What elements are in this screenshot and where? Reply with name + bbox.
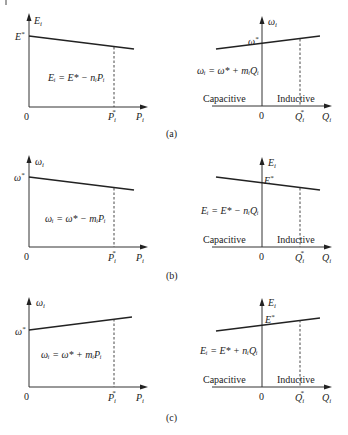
droop-equation: ωᵢ = ω* + mᵢQᵢ bbox=[197, 65, 259, 76]
intercept-label: ω bbox=[15, 326, 22, 337]
svg-text:Pi*: Pi* bbox=[107, 249, 116, 265]
panel-c-right-plot: Ei E* Eᵢ = E* + nᵢQᵢ Capacitive Inductiv… bbox=[199, 297, 332, 405]
svg-text:Ei: Ei bbox=[267, 157, 276, 170]
svg-text:Pi: Pi bbox=[135, 392, 144, 405]
inductive-region-label: Inductive bbox=[277, 374, 315, 385]
droop-line bbox=[29, 177, 134, 190]
droop-line bbox=[29, 317, 132, 330]
svg-text:Qi*: Qi* bbox=[295, 249, 304, 265]
svg-text:Qi: Qi bbox=[322, 111, 331, 124]
svg-text:Pi*: Pi* bbox=[107, 389, 116, 405]
y-axis-arrow-icon bbox=[260, 16, 265, 24]
x-axis-label: P bbox=[135, 111, 142, 122]
x-axis-arrow-icon bbox=[140, 105, 148, 110]
capacitive-region-label: Capacitive bbox=[203, 93, 246, 104]
panel-caption: (b) bbox=[166, 270, 178, 282]
intercept-label: ω bbox=[14, 172, 21, 183]
svg-text:Pi: Pi bbox=[135, 111, 144, 124]
y-axis-label: ω bbox=[35, 156, 42, 167]
x-axis-label: P bbox=[135, 392, 142, 403]
y-axis-arrow-icon bbox=[27, 155, 32, 163]
origin-label: 0 bbox=[24, 111, 29, 122]
svg-text:Qi: Qi bbox=[322, 252, 331, 265]
origin-label: 0 bbox=[259, 391, 264, 402]
panel-b-left-plot: ωi ω* ωᵢ = ω* − mᵢPᵢ 0 Pi* Pi bbox=[14, 155, 148, 265]
x-axis-arrow-icon bbox=[324, 104, 332, 109]
y-axis-arrow-icon bbox=[27, 297, 32, 305]
y-axis-label: ω bbox=[268, 16, 275, 27]
x-axis-label: P bbox=[135, 252, 142, 263]
y-axis-label: E bbox=[33, 15, 40, 26]
panel-c: ωi ω* ωᵢ = ω* + mᵢPᵢ 0 Pi* Pi Ei E* Eᵢ =… bbox=[15, 297, 332, 424]
y-axis-label: E bbox=[267, 157, 274, 168]
panel-caption: (c) bbox=[166, 412, 177, 424]
droop-line bbox=[29, 36, 134, 49]
svg-text:ω*: ω* bbox=[15, 325, 26, 337]
y-axis-label: ω bbox=[36, 297, 43, 308]
panel-b-right-plot: Ei E* Eᵢ = E* − nᵢQᵢ Capacitive Inductiv… bbox=[200, 157, 332, 265]
x-axis-arrow-icon bbox=[324, 245, 332, 250]
droop-equation: Eᵢ = E* − nᵢPᵢ bbox=[47, 72, 105, 83]
y-axis-arrow-icon bbox=[260, 157, 265, 165]
panel-a-right-plot: ωi ω* ωᵢ = ω* + mᵢQᵢ Capacitive Inductiv… bbox=[197, 16, 332, 124]
svg-text:ω*: ω* bbox=[248, 35, 259, 47]
panel-c-left-plot: ωi ω* ωᵢ = ω* + mᵢPᵢ 0 Pi* Pi bbox=[15, 297, 148, 405]
intercept-label: ω bbox=[248, 36, 255, 47]
droop-line bbox=[216, 36, 320, 49]
droop-equation: Eᵢ = E* − nᵢQᵢ bbox=[200, 205, 259, 216]
svg-text:ωi: ωi bbox=[36, 297, 45, 310]
droop-characteristics-figure: Ei E* Eᵢ = E* − nᵢPᵢ 0 Pi* Pi ωi ω* ωᵢ =… bbox=[0, 0, 348, 435]
svg-text:ωi: ωi bbox=[35, 156, 44, 169]
svg-text:Ei: Ei bbox=[267, 297, 276, 310]
y-axis-label: E bbox=[267, 297, 274, 308]
x-axis-arrow-icon bbox=[140, 245, 148, 250]
capacitive-region-label: Capacitive bbox=[203, 374, 246, 385]
intercept-label: E bbox=[14, 31, 21, 42]
inductive-region-label: Inductive bbox=[277, 93, 315, 104]
y-axis-arrow-icon bbox=[260, 298, 265, 306]
svg-text:Qi*: Qi* bbox=[295, 389, 304, 405]
droop-equation: Eᵢ = E* + nᵢQᵢ bbox=[199, 345, 258, 356]
origin-label: 0 bbox=[259, 110, 264, 121]
droop-equation: ωᵢ = ω* + mᵢPᵢ bbox=[41, 349, 102, 360]
y-axis-arrow-icon bbox=[27, 13, 32, 21]
intercept-label: E bbox=[264, 314, 271, 325]
panel-a: Ei E* Eᵢ = E* − nᵢPᵢ 0 Pi* Pi ωi ω* ωᵢ =… bbox=[14, 13, 332, 140]
origin-label: 0 bbox=[24, 251, 29, 262]
panel-a-left-plot: Ei E* Eᵢ = E* − nᵢPᵢ 0 Pi* Pi bbox=[14, 13, 148, 124]
origin-label: 0 bbox=[259, 251, 264, 262]
panel-b: ωi ω* ωᵢ = ω* − mᵢPᵢ 0 Pi* Pi Ei E* Eᵢ =… bbox=[14, 155, 332, 282]
x-axis-arrow-icon bbox=[140, 385, 148, 390]
svg-text:ωi: ωi bbox=[268, 16, 277, 29]
svg-text:Ei: Ei bbox=[33, 15, 42, 28]
svg-text:E*: E* bbox=[14, 30, 25, 42]
x-axis-arrow-icon bbox=[324, 385, 332, 390]
droop-equation: ωᵢ = ω* − mᵢPᵢ bbox=[45, 213, 106, 224]
capacitive-region-label: Capacitive bbox=[203, 234, 246, 245]
svg-text:Pi*: Pi* bbox=[107, 108, 116, 124]
svg-text:ω*: ω* bbox=[14, 171, 25, 183]
svg-text:Qi*: Qi* bbox=[295, 108, 304, 124]
svg-text:Pi: Pi bbox=[135, 252, 144, 265]
svg-text:Qi: Qi bbox=[322, 392, 331, 405]
origin-label: 0 bbox=[24, 391, 29, 402]
inductive-region-label: Inductive bbox=[277, 234, 315, 245]
panel-caption: (a) bbox=[166, 128, 177, 140]
intercept-label: E bbox=[263, 175, 270, 186]
